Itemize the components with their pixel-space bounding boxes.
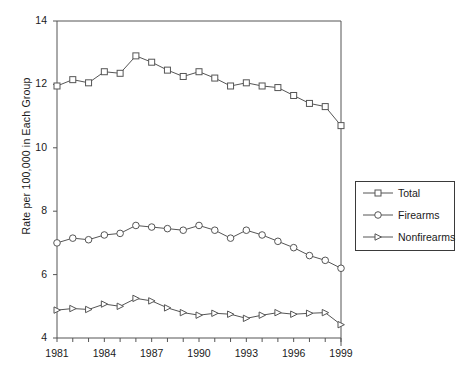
data-point-triangle bbox=[180, 309, 186, 315]
legend-label: Nonfirearms bbox=[398, 231, 455, 243]
series-total bbox=[54, 53, 344, 129]
chart-legend: TotalFirearmsNonfirearms bbox=[355, 181, 455, 251]
data-point-square bbox=[133, 53, 139, 59]
legend-item-total[interactable]: Total bbox=[356, 182, 454, 204]
data-point-square bbox=[180, 73, 186, 79]
data-point-triangle bbox=[275, 309, 281, 315]
data-point-square bbox=[259, 83, 265, 89]
data-point-square bbox=[86, 80, 92, 86]
data-point-triangle bbox=[291, 311, 297, 317]
data-point-triangle bbox=[101, 301, 107, 307]
data-point-triangle bbox=[133, 295, 139, 301]
data-point-square bbox=[101, 69, 107, 75]
data-point-circle bbox=[322, 257, 329, 264]
data-point-triangle bbox=[70, 305, 76, 311]
triangle-marker-icon bbox=[362, 230, 394, 244]
data-point-circle bbox=[101, 232, 108, 239]
data-point-square bbox=[243, 80, 249, 86]
data-point-square bbox=[322, 104, 328, 110]
data-point-square bbox=[306, 100, 312, 106]
data-point-square bbox=[164, 67, 170, 73]
data-point-square bbox=[70, 77, 76, 83]
legend-item-nonfirearms[interactable]: Nonfirearms bbox=[356, 226, 454, 248]
data-point-circle bbox=[148, 224, 155, 231]
data-point-circle bbox=[211, 227, 218, 234]
data-point-square bbox=[149, 59, 155, 65]
data-point-triangle bbox=[212, 310, 218, 316]
x-tick-label: 1990 bbox=[179, 347, 219, 359]
legend-label: Total bbox=[398, 187, 420, 199]
data-point-circle bbox=[180, 227, 187, 234]
data-point-triangle bbox=[375, 234, 381, 240]
chart-figure: Rate per 100,000 in Each Group 468101214… bbox=[0, 0, 463, 379]
legend-item-firearms[interactable]: Firearms bbox=[356, 204, 454, 226]
data-point-circle bbox=[69, 235, 76, 242]
y-tick-label: 12 bbox=[23, 77, 47, 89]
circle-marker-icon bbox=[362, 208, 394, 222]
data-series-group bbox=[54, 53, 345, 328]
data-point-triangle bbox=[243, 315, 249, 321]
data-point-square bbox=[275, 85, 281, 91]
data-point-square bbox=[117, 70, 123, 76]
data-point-circle bbox=[375, 212, 382, 219]
y-tick-label: 14 bbox=[23, 14, 47, 26]
legend-label: Firearms bbox=[398, 209, 439, 221]
y-tick-label: 4 bbox=[23, 331, 47, 343]
data-point-triangle bbox=[228, 311, 234, 317]
data-point-triangle bbox=[306, 310, 312, 316]
data-point-square bbox=[375, 190, 381, 196]
data-point-circle bbox=[54, 240, 61, 247]
data-point-triangle bbox=[117, 303, 123, 309]
data-point-circle bbox=[306, 252, 313, 259]
data-point-triangle bbox=[86, 306, 92, 312]
y-tick-label: 8 bbox=[23, 204, 47, 216]
series-firearms bbox=[54, 222, 345, 271]
data-point-square bbox=[228, 83, 234, 89]
square-marker-icon bbox=[362, 186, 394, 200]
y-tick-label: 10 bbox=[23, 141, 47, 153]
data-point-circle bbox=[290, 244, 297, 251]
data-point-triangle bbox=[196, 312, 202, 318]
data-point-circle bbox=[85, 236, 92, 243]
x-tick-label: 1987 bbox=[132, 347, 172, 359]
data-point-square bbox=[291, 92, 297, 98]
x-tick-label: 1984 bbox=[84, 347, 124, 359]
x-tick-label: 1993 bbox=[226, 347, 266, 359]
data-point-circle bbox=[259, 232, 266, 239]
data-point-triangle bbox=[259, 312, 265, 318]
data-point-triangle bbox=[149, 298, 155, 304]
data-point-circle bbox=[338, 265, 345, 272]
data-point-circle bbox=[275, 238, 282, 245]
data-point-square bbox=[196, 69, 202, 75]
data-point-triangle bbox=[164, 305, 170, 311]
data-point-circle bbox=[164, 225, 171, 232]
data-point-circle bbox=[117, 230, 124, 237]
x-tick-label: 1999 bbox=[321, 347, 361, 359]
x-tick-label: 1981 bbox=[37, 347, 77, 359]
data-point-circle bbox=[133, 222, 140, 229]
data-point-circle bbox=[227, 235, 234, 242]
series-nonfirearms bbox=[54, 295, 344, 328]
y-tick-label: 6 bbox=[23, 268, 47, 280]
data-point-square bbox=[212, 75, 218, 81]
x-tick-label: 1996 bbox=[274, 347, 314, 359]
data-point-circle bbox=[196, 222, 203, 229]
data-point-square bbox=[338, 123, 344, 129]
data-point-square bbox=[54, 83, 60, 89]
data-point-circle bbox=[243, 227, 250, 234]
